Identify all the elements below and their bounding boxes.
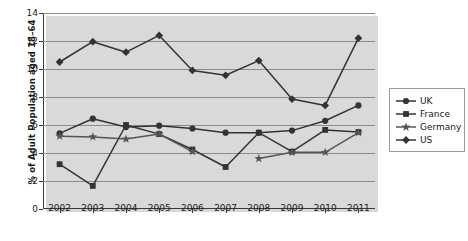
data-point-marker: [355, 102, 361, 108]
legend-marker: [403, 111, 409, 117]
y-tick-label: 0: [32, 204, 38, 214]
y-tick-label: 14: [27, 8, 38, 18]
plot-area: 02468101214: [43, 13, 375, 209]
data-point-marker: [123, 122, 129, 128]
data-point-marker: [122, 134, 131, 142]
legend-item-label: UK: [420, 96, 433, 106]
data-point-marker: [223, 164, 229, 170]
data-point-marker: [189, 125, 195, 131]
x-tick-label: 2008: [247, 203, 270, 213]
star-marker-icon: [394, 121, 418, 133]
data-point-marker: [90, 183, 96, 189]
legend-item-uk[interactable]: UK: [394, 94, 460, 107]
data-point-marker: [355, 34, 363, 42]
series-us: [56, 32, 363, 110]
legend-marker: [402, 122, 411, 130]
y-tick-label: 6: [32, 120, 38, 130]
y-tick-label: 8: [32, 92, 38, 102]
line-chart: % of Adult Population aged 18–64 0246810…: [0, 0, 468, 241]
x-tick-label: 2002: [48, 203, 71, 213]
data-point-marker: [289, 128, 295, 134]
data-point-marker: [254, 154, 263, 162]
data-point-marker: [223, 130, 229, 136]
legend-item-us[interactable]: US: [394, 133, 460, 146]
legend-item-label: US: [420, 135, 432, 145]
data-point-marker: [322, 118, 328, 124]
series-line: [259, 133, 359, 159]
y-tick-label: 12: [27, 36, 38, 46]
legend-item-label: Germany: [420, 122, 461, 132]
data-point-marker: [90, 116, 96, 122]
series-layer: [43, 13, 375, 209]
x-tick-label: 2010: [314, 203, 337, 213]
series-france: [57, 122, 362, 189]
x-tick-label: 2007: [214, 203, 237, 213]
legend-item-label: France: [420, 109, 450, 119]
x-tick-label: 2006: [181, 203, 204, 213]
series-germany: [55, 128, 363, 162]
legend-marker: [402, 136, 410, 144]
data-point-marker: [89, 38, 97, 46]
x-tick-label: 2009: [281, 203, 304, 213]
series-line: [60, 35, 359, 105]
legend: UKFranceGermanyUS: [389, 88, 465, 152]
data-point-marker: [256, 130, 262, 136]
data-point-marker: [88, 132, 97, 140]
data-point-marker: [56, 58, 64, 66]
legend-marker: [403, 97, 409, 103]
data-point-marker: [156, 123, 162, 129]
y-tick-label: 10: [27, 64, 38, 74]
legend-item-germany[interactable]: Germany: [394, 120, 460, 133]
x-tick-label: 2003: [81, 203, 104, 213]
series-line: [60, 105, 359, 133]
data-point-marker: [122, 48, 130, 56]
x-tick-label: 2005: [148, 203, 171, 213]
x-tick-label: 2004: [115, 203, 138, 213]
data-point-marker: [321, 102, 329, 110]
circle-marker-icon: [394, 95, 418, 107]
diamond-marker-icon: [394, 134, 418, 146]
y-tick-label: 4: [32, 148, 38, 158]
data-point-marker: [322, 127, 328, 133]
data-point-marker: [57, 161, 63, 167]
data-point-marker: [222, 71, 230, 79]
square-marker-icon: [394, 108, 418, 120]
data-point-marker: [321, 148, 330, 156]
legend-item-france[interactable]: France: [394, 107, 460, 120]
y-tick-mark: [39, 209, 43, 210]
y-tick-label: 2: [32, 176, 38, 186]
x-tick-label: 2011: [347, 203, 370, 213]
series-uk: [57, 102, 362, 136]
series-line: [60, 125, 359, 186]
